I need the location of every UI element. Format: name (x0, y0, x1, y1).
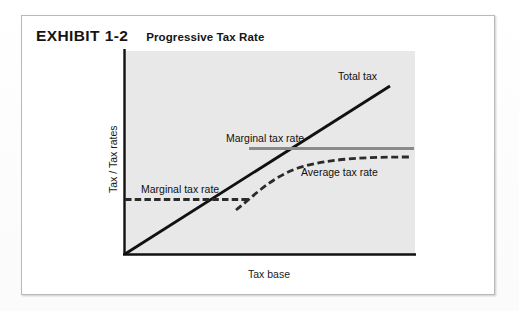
y-axis-label: Tax / Tax rates (107, 125, 119, 193)
chart-figure: Tax / Tax rates Tax base Total tax Margi… (22, 16, 496, 296)
label-marginal-tax-rate-lower: Marginal tax rate (141, 183, 219, 195)
progressive-tax-rate-chart: Tax / Tax rates Tax base Total tax Margi… (22, 16, 496, 296)
label-marginal-tax-rate-upper: Marginal tax rate (226, 132, 304, 144)
label-total-tax: Total tax (338, 70, 378, 82)
x-axis-label: Tax base (248, 268, 290, 280)
label-average-tax-rate: Average tax rate (301, 166, 378, 178)
exhibit-frame: EXHIBIT 1-2 Progressive Tax Rate Tax / T… (21, 15, 495, 295)
